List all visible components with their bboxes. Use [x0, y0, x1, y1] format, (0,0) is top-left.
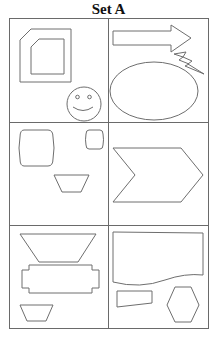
cell-row-2-col-1 — [19, 130, 104, 192]
inverted-trapezoid-large — [20, 234, 96, 262]
cell-row-1-col-2 — [110, 25, 204, 120]
right-arrow — [113, 25, 191, 52]
quadrilateral — [117, 291, 152, 307]
notched-rectangle — [22, 265, 99, 293]
chevron — [113, 148, 203, 202]
cell-row-2-col-2 — [113, 148, 203, 202]
smiley-right-eye — [88, 95, 92, 99]
grid — [10, 19, 209, 329]
lightning-bolt — [174, 52, 204, 74]
smiley-mouth — [73, 107, 93, 111]
inverted-trapezoid-small — [20, 305, 53, 321]
large-barrel-rounded-rectangle — [19, 130, 54, 166]
smiley-face-outline — [67, 87, 101, 121]
smiley-left-eye — [76, 95, 80, 99]
cell-row-3-col-2 — [113, 232, 203, 322]
shape-set-diagram — [0, 0, 219, 338]
trapezoid — [54, 175, 89, 192]
small-barrel-rounded-rectangle — [86, 130, 104, 149]
hexagon — [167, 287, 199, 322]
smiley-face — [67, 87, 101, 121]
ellipse — [110, 62, 198, 120]
cell-row-1-col-1 — [20, 29, 101, 121]
wavy-bottom-rectangle — [113, 232, 203, 285]
corner-cut-square-inner — [31, 39, 64, 74]
cell-row-3-col-1 — [20, 234, 99, 321]
